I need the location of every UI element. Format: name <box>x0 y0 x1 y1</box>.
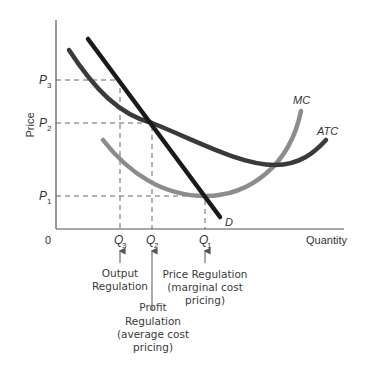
svg-text:P: P <box>39 73 47 87</box>
mc-curve <box>103 111 301 196</box>
origin-label: 0 <box>45 234 51 246</box>
quantity-label-q2: Q 2 <box>146 233 159 250</box>
svg-text:2: 2 <box>47 124 52 133</box>
svg-text:(average cost: (average cost <box>117 328 189 340</box>
mc-label: MC <box>293 94 310 106</box>
price-label-p1: P 1 <box>39 189 52 206</box>
p1-q1-guide <box>56 196 205 229</box>
svg-text:Output: Output <box>102 267 138 279</box>
atc-label: ATC <box>316 125 338 137</box>
y-axis-label: Price <box>24 112 36 137</box>
svg-text:2: 2 <box>154 241 159 250</box>
quantity-label-q1: Q 1 <box>199 233 212 250</box>
svg-text:Price Regulation: Price Regulation <box>162 268 247 280</box>
svg-text:Profit: Profit <box>139 301 166 313</box>
output-regulation-annotation: Output Regulation <box>92 267 148 292</box>
svg-text:1: 1 <box>207 241 212 250</box>
svg-text:P: P <box>39 189 47 203</box>
svg-text:1: 1 <box>47 197 52 206</box>
svg-text:Regulation: Regulation <box>92 280 148 292</box>
svg-text:pricing): pricing) <box>185 294 225 306</box>
price-regulation-annotation: Price Regulation (marginal cost pricing) <box>162 268 247 306</box>
regulation-diagram: MC ATC D Price P 3 P 2 P 1 0 Quantity Q … <box>0 0 366 373</box>
price-label-p2: P 2 <box>39 116 52 133</box>
svg-text:P: P <box>39 116 47 130</box>
svg-text:pricing): pricing) <box>133 341 173 353</box>
demand-label: D <box>225 216 233 228</box>
quantity-label-q3: Q 3 <box>114 233 127 250</box>
demand-curve <box>88 39 220 217</box>
price-label-p3: P 3 <box>39 73 52 90</box>
svg-text:3: 3 <box>47 81 52 90</box>
profit-regulation-annotation: Profit Regulation (average cost pricing) <box>117 301 189 353</box>
x-axis-label: Quantity <box>306 234 347 246</box>
svg-text:Regulation: Regulation <box>125 315 181 327</box>
svg-text:(marginal cost: (marginal cost <box>167 281 243 293</box>
svg-text:3: 3 <box>122 241 127 250</box>
